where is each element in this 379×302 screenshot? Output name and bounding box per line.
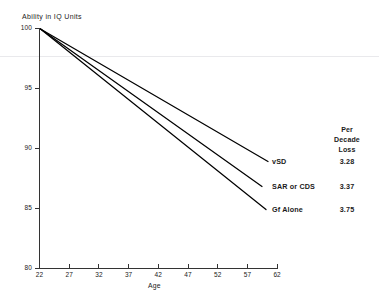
x-axis-title: Age	[148, 283, 161, 290]
x-axis-tick-label: 57	[237, 272, 257, 279]
x-axis-tick-label: 22	[30, 272, 50, 279]
legend-header-line-2: Decade	[325, 136, 369, 143]
series-label-vsd: vSD	[272, 158, 286, 165]
y-axis-tick-label: 100	[14, 25, 32, 32]
series-label-gf-alone: Gf Alone	[272, 206, 303, 213]
series-line-vsd	[41, 29, 269, 162]
y-axis-title: Ability in IQ Units	[22, 13, 82, 20]
x-axis-tick-label: 32	[89, 272, 109, 279]
legend-value-vsd: 3.28	[325, 158, 369, 165]
x-axis-tick-label: 52	[208, 272, 228, 279]
chart-figure: Ability in IQ Units 100 95 90 85 80 22 2…	[0, 0, 379, 302]
x-axis-tick-label: 27	[59, 272, 79, 279]
chart-canvas	[0, 0, 379, 302]
y-axis-tick-label: 95	[14, 85, 32, 92]
series-label-sar-or-cds: SAR or CDS	[272, 183, 315, 190]
y-axis-tick-label: 90	[14, 145, 32, 152]
legend-value-sar-or-cds: 3.37	[325, 183, 369, 190]
legend-header-line-1: Per	[325, 126, 369, 133]
y-axis-tick-label: 85	[14, 205, 32, 212]
y-axis-tick-label: 80	[14, 265, 32, 272]
x-axis-tick-label: 37	[119, 272, 139, 279]
x-axis-tick-label: 47	[178, 272, 198, 279]
legend-value-gf-alone: 3.75	[325, 206, 369, 213]
legend-header-line-3: Loss	[325, 146, 369, 153]
series-line-sar-or-cds	[41, 29, 263, 187]
x-axis-tick-label: 42	[148, 272, 168, 279]
x-axis-tick-label: 62	[267, 272, 287, 279]
